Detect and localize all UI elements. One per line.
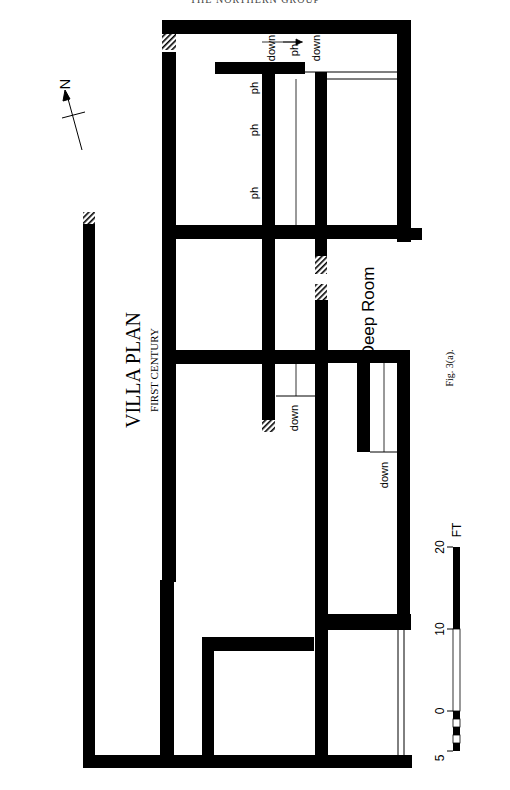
scale-unit: FT xyxy=(450,522,464,537)
wall-east-upper xyxy=(397,20,411,242)
wall-cross-1-ext xyxy=(397,228,422,240)
scale-tick-5: 5 xyxy=(433,754,447,761)
label-ph-3: ph xyxy=(248,124,260,136)
scale-tick-10: 10 xyxy=(433,622,447,636)
wall-small-room-west xyxy=(202,637,214,762)
wall-inner-ph xyxy=(262,72,275,422)
scale-tick-20: 20 xyxy=(433,540,447,554)
wall-small-room-top xyxy=(202,637,314,651)
label-down-2: down xyxy=(310,35,322,61)
wall-west-inner-lower xyxy=(160,580,174,760)
wall-mid-upper xyxy=(315,72,327,257)
label-down-3: down xyxy=(288,405,300,431)
wall-west-inner-upper xyxy=(162,52,176,582)
scale-tick-0: 0 xyxy=(433,707,447,714)
plan-subtitle: FIRST CENTURY xyxy=(148,328,160,412)
label-ph-1: ph xyxy=(288,44,300,56)
label-deep-room: Deep Room xyxy=(359,267,378,358)
plan-title: VILLA PLAN xyxy=(122,312,144,428)
north-label: N xyxy=(56,79,73,90)
figure-caption: Fig. 3(a). xyxy=(444,350,456,387)
label-down-1: down xyxy=(265,35,277,61)
wall-cross-1 xyxy=(176,225,398,239)
scale-bar xyxy=(447,547,460,751)
wall-hatch-ph xyxy=(262,420,275,432)
wall-cross-3 xyxy=(327,614,411,630)
wall-east-lower xyxy=(397,350,410,625)
wall-north xyxy=(162,20,410,34)
stair-arrows xyxy=(283,39,387,452)
wall-south-outer xyxy=(83,755,412,768)
wall-mid-lower xyxy=(315,300,328,765)
label-down-4: down xyxy=(378,462,390,488)
label-ph-4: ph xyxy=(248,187,260,199)
wall-hatch-mid-2 xyxy=(315,284,327,300)
north-arrow-icon xyxy=(62,90,85,150)
wall-hatch-mid-1 xyxy=(315,256,327,274)
wall-deep-room-inner xyxy=(357,350,370,452)
label-ph-2: ph xyxy=(248,82,260,94)
villa-plan-figure: N down ph down ph ph ph down down Deep R… xyxy=(0,0,510,790)
wall-west-outer xyxy=(83,222,95,767)
wall-hatch xyxy=(83,212,95,224)
